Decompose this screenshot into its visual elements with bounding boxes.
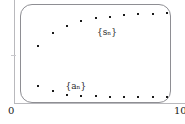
data-point bbox=[152, 13, 154, 15]
data-point bbox=[95, 17, 97, 19]
data-point bbox=[137, 96, 139, 98]
data-point bbox=[166, 96, 168, 98]
data-point bbox=[52, 90, 54, 92]
axis-origin-label: 0 bbox=[8, 106, 14, 116]
data-point bbox=[66, 94, 68, 96]
data-point bbox=[109, 96, 111, 98]
y-axis-line bbox=[14, 0, 15, 104]
axis-xmax-label: 10 bbox=[174, 106, 185, 116]
data-point bbox=[123, 14, 125, 16]
data-point bbox=[37, 45, 39, 47]
data-point bbox=[80, 95, 82, 97]
data-point bbox=[166, 12, 168, 14]
series-label-lower: {aₙ} bbox=[65, 82, 86, 91]
sequence-scatter-figure: {sₙ} {aₙ} 0 10 bbox=[0, 0, 185, 124]
data-point bbox=[37, 85, 39, 87]
data-point bbox=[80, 20, 82, 22]
data-point bbox=[52, 32, 54, 34]
data-point bbox=[137, 13, 139, 15]
data-point bbox=[66, 25, 68, 27]
data-point bbox=[109, 16, 111, 18]
x-axis-line bbox=[14, 103, 185, 104]
series-label-upper: {sₙ} bbox=[97, 28, 117, 37]
data-point bbox=[152, 96, 154, 98]
data-point bbox=[123, 96, 125, 98]
data-point bbox=[95, 95, 97, 97]
y-axis-tick bbox=[11, 55, 16, 56]
